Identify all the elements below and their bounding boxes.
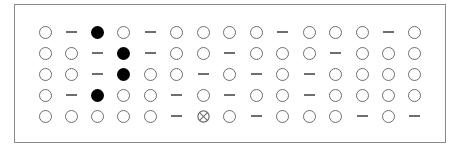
open-circle-icon: [197, 47, 210, 60]
dash-icon: [304, 73, 315, 75]
grid-cell: [327, 24, 343, 40]
open-circle-icon: [408, 26, 421, 39]
grid-cell: [354, 108, 370, 124]
open-circle-icon: [223, 110, 236, 123]
dash-icon: [171, 115, 182, 117]
grid-cell: [248, 66, 264, 82]
grid-cell: [327, 87, 343, 103]
grid-cell: [380, 66, 396, 82]
grid-cell: [89, 108, 105, 124]
grid-cell: [221, 87, 237, 103]
grid-cell: [406, 66, 422, 82]
open-circle-icon: [303, 110, 316, 123]
open-circle-icon: [144, 68, 157, 81]
open-circle-icon: [382, 68, 395, 81]
open-circle-icon: [276, 89, 289, 102]
grid-cell: [63, 66, 79, 82]
grid-cell: [89, 87, 105, 103]
open-circle-icon: [39, 110, 52, 123]
grid-cell: [406, 24, 422, 40]
grid-cell: [221, 45, 237, 61]
dash-icon: [304, 94, 315, 96]
grid-cell: [327, 66, 343, 82]
open-circle-icon: [382, 110, 395, 123]
grid-cell: [195, 45, 211, 61]
open-circle-icon: [170, 26, 183, 39]
grid-cell: [274, 87, 290, 103]
open-circle-icon: [408, 68, 421, 81]
grid-cell: [195, 108, 211, 124]
open-circle-icon: [144, 89, 157, 102]
grid-cell: [168, 108, 184, 124]
grid-cell: [380, 45, 396, 61]
grid-cell: [327, 108, 343, 124]
grid-cell: [142, 108, 158, 124]
grid-cell: [301, 66, 317, 82]
grid-cell: [37, 108, 53, 124]
grid-cell: [221, 108, 237, 124]
open-circle-icon: [250, 47, 263, 60]
open-circle-icon: [382, 47, 395, 60]
open-circle-icon: [356, 89, 369, 102]
open-circle-icon: [329, 68, 342, 81]
open-circle-icon: [117, 26, 130, 39]
grid-cell: [142, 24, 158, 40]
open-circle-icon: [170, 68, 183, 81]
open-circle-icon: [197, 26, 210, 39]
filled-circle-icon: [91, 89, 104, 102]
open-circle-icon: [276, 47, 289, 60]
open-circle-icon: [39, 68, 52, 81]
grid-cell: [115, 24, 131, 40]
open-circle-icon: [223, 68, 236, 81]
open-circle-icon: [197, 89, 210, 102]
dash-icon: [224, 94, 235, 96]
open-circle-icon: [356, 47, 369, 60]
grid-cell: [168, 24, 184, 40]
grid-cell: [89, 45, 105, 61]
open-circle-icon: [329, 26, 342, 39]
grid-cell: [142, 87, 158, 103]
grid-cell: [274, 24, 290, 40]
grid-cell: [37, 87, 53, 103]
grid-cell: [221, 66, 237, 82]
open-circle-icon: [303, 47, 316, 60]
dash-icon: [92, 73, 103, 75]
grid-cell: [195, 24, 211, 40]
grid-cell: [115, 45, 131, 61]
grid-cell: [248, 87, 264, 103]
open-circle-icon: [91, 110, 104, 123]
grid-cell: [168, 87, 184, 103]
grid-cell: [380, 87, 396, 103]
open-circle-icon: [356, 26, 369, 39]
grid-cell: [301, 108, 317, 124]
dash-icon: [277, 31, 288, 33]
grid-cell: [248, 108, 264, 124]
filled-circle-icon: [117, 68, 130, 81]
grid-cell: [168, 66, 184, 82]
open-circle-icon: [382, 89, 395, 102]
dash-icon: [330, 52, 341, 54]
crossed-circle-icon: [197, 110, 210, 123]
grid-cell: [354, 66, 370, 82]
dash-icon: [145, 52, 156, 54]
open-circle-icon: [39, 26, 52, 39]
grid-cell: [380, 108, 396, 124]
grid-cell: [221, 24, 237, 40]
open-circle-icon: [303, 26, 316, 39]
grid-cell: [63, 45, 79, 61]
grid-cell: [115, 87, 131, 103]
grid-cell: [248, 24, 264, 40]
open-circle-icon: [117, 89, 130, 102]
grid-cell: [89, 24, 105, 40]
grid-cell: [406, 45, 422, 61]
grid-cell: [301, 87, 317, 103]
open-circle-icon: [250, 89, 263, 102]
grid-cell: [89, 66, 105, 82]
open-circle-icon: [329, 110, 342, 123]
open-circle-icon: [65, 110, 78, 123]
grid-cell: [354, 45, 370, 61]
dash-icon: [383, 31, 394, 33]
grid-cell: [274, 66, 290, 82]
open-circle-icon: [39, 47, 52, 60]
dash-icon: [409, 115, 420, 117]
